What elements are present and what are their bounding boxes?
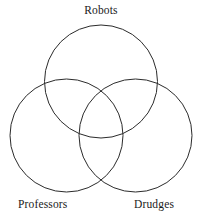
drudges-circle xyxy=(79,79,192,192)
venn-diagram-figure: Robots Professors Drudges xyxy=(0,0,202,219)
professors-circle xyxy=(10,79,123,192)
robots-circle xyxy=(45,25,158,138)
robots-label: Robots xyxy=(0,4,202,17)
drudges-label: Drudges xyxy=(134,198,174,211)
professors-label: Professors xyxy=(18,198,67,211)
venn-diagram-canvas xyxy=(0,0,202,219)
